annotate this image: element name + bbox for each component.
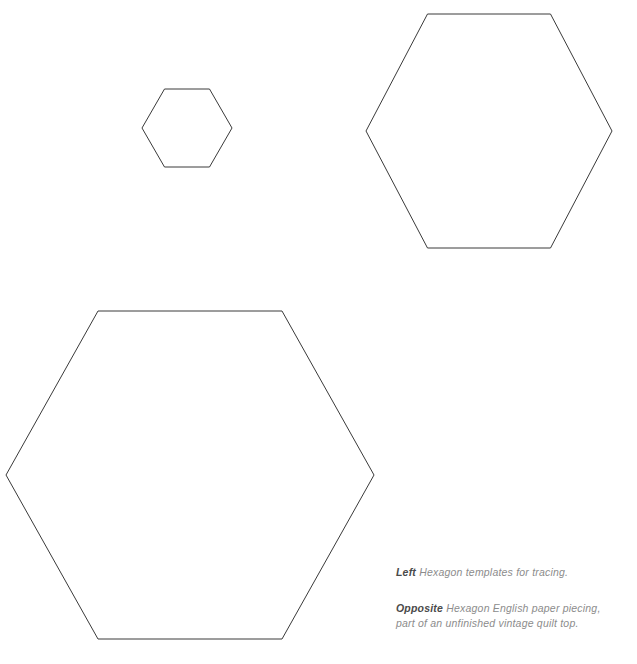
caption-left: Left Hexagon templates for tracing. <box>396 565 628 580</box>
large-hexagon <box>6 311 374 639</box>
caption-left-text: Hexagon templates for tracing. <box>419 566 568 578</box>
page-canvas: Left Hexagon templates for tracing. Oppo… <box>0 0 637 664</box>
caption-opposite: Opposite Hexagon English paper piecing, … <box>396 601 628 631</box>
caption-opposite-lead: Opposite <box>396 602 446 614</box>
caption-left-lead: Left <box>396 566 419 578</box>
caption-opposite-text-line2: part of an unfinished vintage quilt top. <box>396 616 628 631</box>
medium-hexagon <box>366 14 612 248</box>
caption-opposite-text-line1: Hexagon English paper piecing, <box>446 602 600 614</box>
small-hexagon <box>142 89 232 167</box>
